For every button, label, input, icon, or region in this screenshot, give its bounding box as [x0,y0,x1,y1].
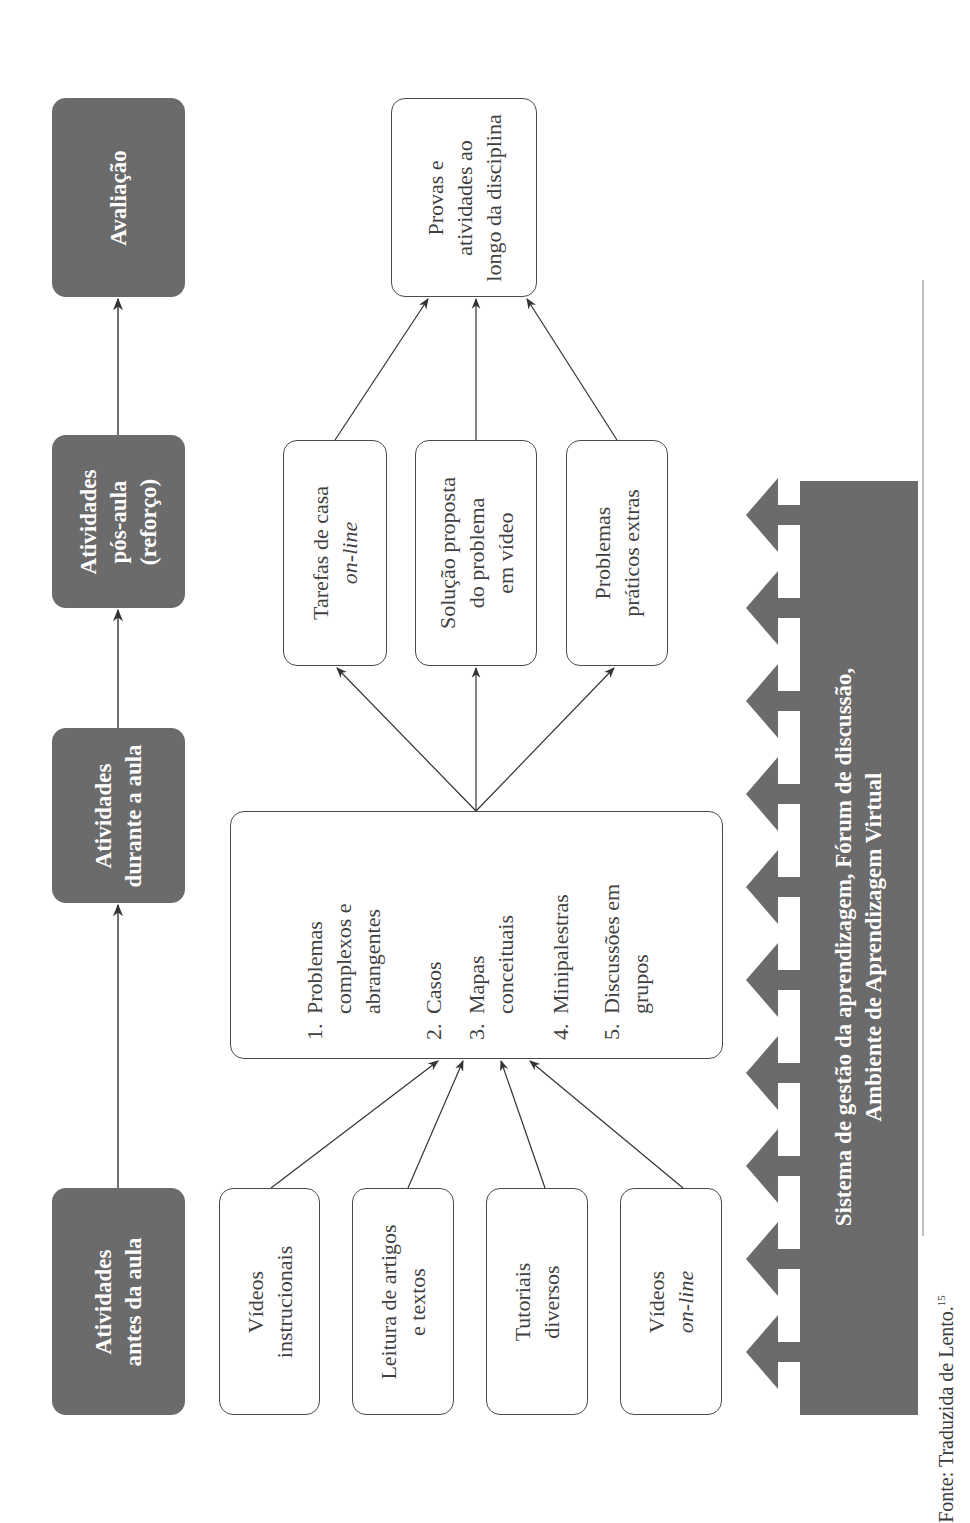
list-item: 4. Minipalestras [545,830,574,1040]
source-caption: Fonte: Traduzida de Lento.15 [935,1295,958,1523]
stage-label: pós-aula [104,469,134,574]
item-number: 2. [418,1014,447,1040]
pre-class-arrows [271,1061,683,1188]
stage-label: Atividades [74,469,104,574]
list-item: 5. Discussões em grupos [596,830,654,1040]
item-text: longo da disciplina [479,114,508,281]
stage-post-class: Atividades pós-aula (reforço) [52,435,185,608]
item-text: Tutoriais [508,1262,537,1341]
item-text: Solução proposta [433,477,462,629]
pre-class-item: Vídeos instrucionais [219,1188,320,1415]
item-text: grupos [625,884,654,1014]
item-number: 3. [461,1014,519,1040]
item-text: e textos [403,1224,432,1379]
item-text: em vídeo [491,477,520,629]
item-text: práticos extras [617,489,646,617]
item-text: conceituais [490,915,519,1014]
item-text: complexos e [328,903,357,1014]
item-text: Vídeos [241,1245,270,1357]
bar-text-line: Ambiente de Aprendizagem Virtual [859,668,889,1227]
stage-label: antes da aula [119,1237,149,1366]
item-number: 4. [545,1014,574,1040]
post-class-item: Tarefas de casa on-line [283,440,387,666]
item-text: Provas e [421,114,450,281]
item-number: 5. [596,1014,654,1040]
item-text: diversos [537,1262,566,1341]
in-class-arrows [337,668,614,811]
item-text: do problema [462,477,491,629]
platform-bar-label: Sistema de gestão da aprendizagem, Fórum… [829,668,889,1227]
stage-label: Avaliação [104,150,134,245]
in-class-box: 1. Problemas complexos e abrangentes 2. … [230,811,723,1059]
item-text: Mapas [461,915,490,1014]
bar-text-line: Sistema de gestão da aprendizagem, Fórum… [829,668,859,1227]
item-text: instrucionais [270,1245,299,1357]
item-text: on-line [671,1270,700,1332]
stage-during-class: Atividades durante a aula [52,728,185,903]
item-text: atividades ao [450,114,479,281]
item-text: Tarefas de casa [306,486,335,620]
stage-before-class: Atividades antes da aula [52,1188,185,1415]
item-text: abrangentes [357,903,386,1014]
stage-label: Atividades [89,744,119,887]
item-text: Minipalestras [545,894,574,1014]
stage-label: durante a aula [119,744,149,887]
source-text: Fonte: Traduzida de Lento. [935,1306,957,1523]
list-item: 2. Casos [418,830,447,1040]
platform-arrows [746,478,800,1389]
stage-label: Atividades [89,1237,119,1366]
pre-class-item: Vídeos on-line [620,1188,722,1415]
post-class-item: Problemas práticos extras [566,440,668,666]
item-text: Vídeos [642,1270,671,1332]
item-text: Problemas [588,489,617,617]
footnote-ref: 15 [935,1295,947,1306]
evaluation-box: Provas e atividades ao longo da discipli… [391,98,537,297]
post-class-arrows [335,299,617,440]
stage-evaluation: Avaliação [52,98,185,297]
pre-class-item: Leitura de artigos e textos [352,1188,454,1415]
list-item: 3. Mapas conceituais [461,830,519,1040]
item-number: 1. [299,1014,386,1040]
post-class-item: Solução proposta do problema em vídeo [415,440,537,666]
stage-label: (reforço) [134,469,164,574]
item-text: Problemas [299,903,328,1014]
pre-class-item: Tutoriais diversos [486,1188,588,1415]
item-text: on-line [335,486,364,620]
item-text: Casos [418,961,447,1014]
item-text: Leitura de artigos [374,1224,403,1379]
list-item: 1. Problemas complexos e abrangentes [299,830,386,1040]
item-text: Discussões em [596,884,625,1014]
